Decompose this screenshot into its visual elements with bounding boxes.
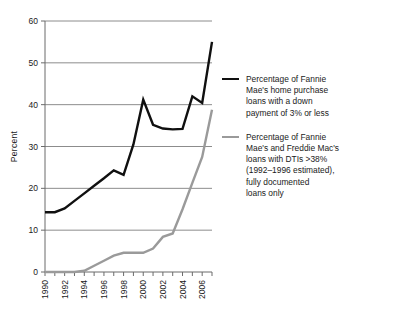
x-tick-label: 2000 [138,280,148,299]
series-line-fannie-low-downpayment [45,42,212,212]
x-tick-label: 1992 [60,280,70,299]
y-axis-title: Percent [9,130,19,162]
x-tick-label: 1990 [40,280,50,299]
legend-entry: Percentage of Fannie Mae's home purchase… [222,74,386,119]
x-tick-label: 2002 [158,280,168,299]
legend-swatch-line-icon [222,136,239,138]
chart-legend: Percentage of Fannie Mae's home purchase… [222,74,386,212]
x-tick-label: 1998 [119,280,129,299]
chart-figure: 0102030405060Percent19901992199419961998… [0,0,393,317]
y-axis: 0102030405060Percent [9,16,45,277]
x-tick-label: 2006 [197,280,207,299]
legend-swatch-line-icon [222,78,239,80]
y-tick-label: 40 [29,100,39,110]
y-tick-label: 10 [29,225,39,235]
y-tick-label: 0 [33,267,38,277]
legend-label: Percentage of Fannie Mae's and Freddie M… [246,132,386,199]
y-tick-label: 50 [29,58,39,68]
legend-label: Percentage of Fannie Mae's home purchase… [246,74,386,119]
legend-entry: Percentage of Fannie Mae's and Freddie M… [222,132,386,199]
y-tick-label: 20 [29,183,39,193]
x-tick-label: 2004 [178,280,188,299]
x-axis: 199019921994199619982000200220042006 [40,272,212,299]
y-tick-label: 60 [29,16,39,26]
series-line-fannie-freddie-high-dti [45,110,212,272]
x-tick-label: 1994 [79,280,89,299]
x-tick-label: 1996 [99,280,109,299]
y-tick-label: 30 [29,142,39,152]
data-series-group [45,42,212,272]
